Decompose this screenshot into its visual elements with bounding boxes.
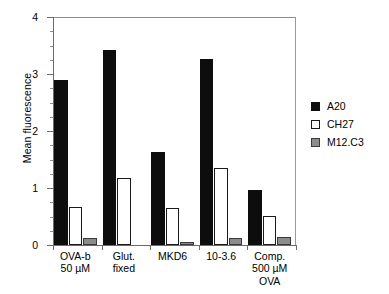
x-tick — [199, 245, 200, 250]
x-category-label: MKD6 — [158, 250, 187, 262]
bar — [103, 50, 117, 245]
y-tick-minor — [50, 217, 53, 218]
y-tick-major: 2 — [47, 131, 53, 132]
y-tick-minor — [50, 202, 53, 203]
y-tick-label: 4 — [32, 12, 38, 23]
x-category-label-line: OVA-b — [60, 250, 91, 262]
y-tick-major: 1 — [47, 188, 53, 189]
bar — [180, 242, 194, 245]
legend-label: M12.C3 — [327, 137, 364, 148]
legend-item: CH27 — [311, 115, 364, 133]
x-category-label-line: 10-3.6 — [206, 250, 236, 262]
chart-legend: A20CH27M12.C3 — [311, 97, 364, 151]
y-tick-minor — [50, 117, 53, 118]
plot-area: 01234 — [53, 17, 296, 245]
y-tick-minor — [50, 145, 53, 146]
plot-right-spine — [295, 17, 296, 245]
y-tick-minor — [50, 60, 53, 61]
y-tick-major: 4 — [47, 17, 53, 18]
x-tick — [247, 245, 248, 250]
legend-swatch-icon — [311, 120, 320, 129]
bar — [151, 152, 165, 245]
x-category-label-line: Comp. — [252, 250, 287, 262]
y-tick-label: 1 — [32, 183, 38, 194]
y-tick-label: 0 — [32, 240, 38, 251]
y-tick-minor — [50, 174, 53, 175]
x-category-label: Comp.500 µMOVA — [252, 250, 287, 287]
x-category-label-line: fixed — [113, 262, 135, 274]
bar — [200, 59, 214, 245]
legend-item: A20 — [311, 97, 364, 115]
x-category-label: OVA-b50 µM — [60, 250, 91, 275]
x-category-label: Glut.fixed — [113, 250, 135, 275]
x-category-label-line: MKD6 — [158, 250, 187, 262]
bar — [229, 238, 243, 245]
y-tick-label: 3 — [32, 69, 38, 80]
legend-item: M12.C3 — [311, 133, 364, 151]
x-category-label-line: OVA — [252, 275, 287, 287]
plot-top-spine — [53, 17, 296, 18]
bar — [214, 168, 228, 245]
legend-label: CH27 — [327, 119, 354, 130]
x-tick — [53, 245, 54, 250]
bar — [54, 80, 68, 245]
x-axis-line — [53, 245, 296, 246]
legend-label: A20 — [327, 101, 346, 112]
x-tick — [102, 245, 103, 250]
x-category-label-line: 50 µM — [60, 262, 91, 274]
bar-chart-figure: Mean fluorescence 01234 OVA-b50 µMGlut.f… — [0, 0, 389, 294]
bar — [83, 238, 97, 245]
y-tick-minor — [50, 46, 53, 47]
y-tick-minor — [50, 88, 53, 89]
x-category-label: 10-3.6 — [206, 250, 236, 262]
bar — [263, 216, 277, 245]
y-tick-major: 3 — [47, 74, 53, 75]
y-tick-minor — [50, 103, 53, 104]
y-tick-minor — [50, 160, 53, 161]
x-category-label-line: Glut. — [113, 250, 135, 262]
bar — [117, 178, 131, 245]
legend-swatch-icon — [311, 102, 320, 111]
y-tick-label: 2 — [32, 126, 38, 137]
bar — [69, 207, 83, 245]
bar — [166, 208, 180, 245]
bar — [248, 190, 262, 245]
y-axis-title: Mean fluorescence — [21, 38, 33, 198]
x-category-label-line: 500 µM — [252, 262, 287, 274]
y-tick-minor — [50, 31, 53, 32]
y-tick-minor — [50, 231, 53, 232]
bar — [277, 237, 291, 245]
x-tick — [150, 245, 151, 250]
legend-swatch-icon — [311, 138, 320, 147]
x-tick — [296, 245, 297, 250]
